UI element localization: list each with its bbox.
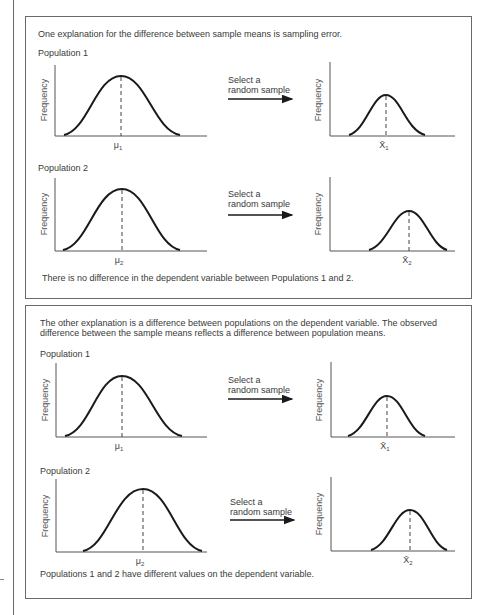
panel-1-sample-2-chart: Frequency X̄2 <box>313 177 455 266</box>
mean-label: X̄1 <box>380 441 390 452</box>
axes <box>56 479 207 552</box>
mean-label: μ1 <box>115 441 124 452</box>
normal-curve <box>65 376 182 436</box>
normal-curve <box>349 95 425 135</box>
y-axis-label: Frequency <box>40 494 50 537</box>
normal-curve <box>64 76 180 135</box>
panel-1-population-1-chart: Frequency μ1 <box>39 65 207 151</box>
axes <box>330 177 455 251</box>
mean-label: μ2 <box>136 556 145 567</box>
y-axis-label: Frequency <box>39 78 49 121</box>
y-axis-label: Frequency <box>40 378 50 421</box>
y-axis-label: Frequency <box>313 78 323 121</box>
y-axis-label: Frequency <box>314 492 324 535</box>
mean-label: μ2 <box>115 255 124 266</box>
distribution-figures: Frequency μ1 Frequency X̄1 Frequency μ2 … <box>0 0 489 615</box>
y-axis-label: Frequency <box>39 192 49 235</box>
normal-curve <box>369 211 447 250</box>
panel-2-sample-2-chart: Frequency X̄2 <box>314 477 455 566</box>
mean-label: X̄2 <box>403 555 413 566</box>
panel-2-population-2-chart: Frequency μ2 <box>40 479 207 567</box>
panel-1-population-2-chart: Frequency μ2 <box>39 178 207 266</box>
y-axis-label: Frequency <box>313 192 323 235</box>
mean-label: μ1 <box>114 140 123 151</box>
axes <box>331 362 455 437</box>
mean-label: X̄1 <box>379 140 389 151</box>
panel-1-sample-1-chart: Frequency X̄1 <box>313 62 455 151</box>
mean-label: X̄2 <box>402 255 412 266</box>
y-axis-label: Frequency <box>314 378 324 421</box>
normal-curve <box>348 396 425 436</box>
panel-2-sample-1-chart: Frequency X̄1 <box>314 362 455 452</box>
normal-curve <box>371 510 447 550</box>
panel-2-population-1-chart: Frequency μ1 <box>40 363 207 452</box>
